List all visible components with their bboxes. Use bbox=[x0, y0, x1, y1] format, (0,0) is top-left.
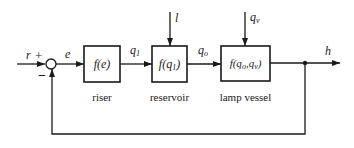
lamp-vessel-caption: lamp vessel bbox=[220, 91, 272, 103]
input-label: r bbox=[26, 48, 31, 62]
q1-label: q1 bbox=[130, 43, 140, 58]
riser-function: f(e) bbox=[94, 57, 111, 71]
qo-label: qo bbox=[198, 43, 208, 58]
block-diagram: r + − e f(e) riser q1 l f(q1) reservoir … bbox=[0, 0, 354, 148]
error-label: e bbox=[65, 47, 71, 61]
summing-junction bbox=[46, 59, 56, 69]
plus-sign: + bbox=[35, 48, 42, 63]
output-label: h bbox=[325, 44, 331, 58]
riser-caption: riser bbox=[92, 91, 112, 103]
reservoir-function: f(q1) bbox=[159, 57, 180, 72]
minus-sign: − bbox=[38, 68, 46, 83]
qv-label: qv bbox=[250, 10, 260, 25]
reservoir-caption: reservoir bbox=[150, 91, 189, 103]
lamp-vessel-function: f(qo,qv) bbox=[230, 57, 262, 71]
l-label: l bbox=[175, 11, 179, 25]
